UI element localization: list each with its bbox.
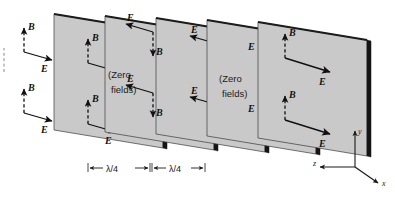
- x-axis-label: x: [381, 179, 386, 188]
- b-vector-label: B: [27, 82, 35, 93]
- panel-2-zero-label-line2: fields): [111, 84, 136, 95]
- panel-4-zero-label-line1: (Zero: [219, 73, 242, 84]
- panel-5-face: [258, 22, 367, 156]
- e-vector-label: E: [126, 12, 134, 23]
- e-vector-label: E: [40, 124, 48, 135]
- b-vector-label: B: [91, 93, 99, 104]
- e-vector-label: E: [318, 138, 326, 149]
- e-vector-label: E: [40, 63, 48, 74]
- panel-5: E E B E B E: [247, 22, 371, 157]
- e-vector-label: E: [247, 41, 255, 52]
- e-vector-label: E: [190, 24, 198, 35]
- dim-2-label: λ/4: [169, 164, 181, 174]
- diagram-svg: B E B E B E B E (Zero f: [0, 0, 395, 198]
- y-axis-label: y: [357, 127, 362, 136]
- e-vector-label: E: [104, 135, 112, 146]
- b-vector-label: B: [155, 107, 163, 118]
- b-vector-label: B: [155, 46, 163, 57]
- panel-4-zero-label-line2: fields): [222, 88, 247, 99]
- e-vector-label: E: [247, 103, 255, 114]
- b-vector-label: B: [288, 27, 296, 38]
- panel-5-right-edge: [367, 40, 371, 157]
- e-vector-label: E: [190, 85, 198, 96]
- e-vector-label: E: [126, 73, 134, 84]
- b-vector-label: B: [91, 32, 99, 43]
- figure-canvas: B E B E B E B E (Zero f: [0, 0, 395, 198]
- e-vector-label: E: [318, 76, 326, 87]
- dim-1-label: λ/4: [106, 164, 118, 174]
- b-vector-label: B: [288, 89, 296, 100]
- b-vector-label: B: [27, 21, 35, 32]
